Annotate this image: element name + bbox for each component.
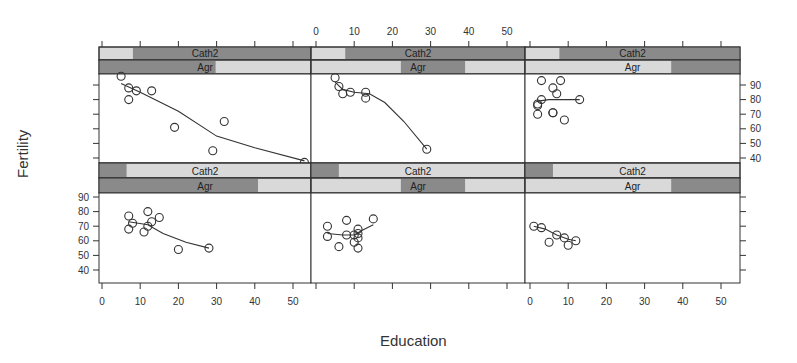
strip-cath2-label: Cath2 xyxy=(619,166,646,177)
strip-agr-label: Agr xyxy=(410,181,426,192)
y-tick-label-right: 40 xyxy=(750,153,762,164)
x-tick-label-top: 30 xyxy=(425,26,437,37)
strip-cath2-shade xyxy=(559,48,740,60)
y-tick-label-left: 70 xyxy=(78,221,90,232)
x-tick-label-top: 50 xyxy=(501,26,513,37)
plot-area xyxy=(311,193,525,283)
strip-cath2-shade xyxy=(525,164,553,178)
y-tick-label-left: 90 xyxy=(78,192,90,203)
x-tick-label-bottom: 40 xyxy=(677,296,689,307)
x-tick-label-bottom: 50 xyxy=(287,296,299,307)
panel-top-1: Cath2Agr xyxy=(99,47,311,166)
x-tick-label-bottom: 30 xyxy=(211,296,223,307)
plot-area xyxy=(525,193,740,283)
strip-agr-shade xyxy=(671,61,740,74)
x-tick-label-bottom: 20 xyxy=(173,296,185,307)
x-tick-label-top: 40 xyxy=(463,26,475,37)
x-axis-title: Education xyxy=(380,332,447,349)
strip-cath2-label: Cath2 xyxy=(192,48,219,59)
panel-top-3: Cath2Agr xyxy=(525,47,740,163)
x-tick-label-bottom: 50 xyxy=(715,296,727,307)
y-tick-label-left: 80 xyxy=(78,206,90,217)
y-tick-label-right: 50 xyxy=(750,138,762,149)
x-tick-label-top: 0 xyxy=(313,26,319,37)
strip-agr-label: Agr xyxy=(197,181,213,192)
strip-agr-label: Agr xyxy=(197,62,213,73)
strip-agr-shade xyxy=(99,179,258,193)
strip-cath2-label: Cath2 xyxy=(405,48,432,59)
x-tick-label-top: 10 xyxy=(349,26,361,37)
strip-cath2-shade xyxy=(311,164,339,178)
strip-cath2-label: Cath2 xyxy=(619,48,646,59)
x-tick-label-bottom: 10 xyxy=(135,296,147,307)
panel-bottom-2: Cath2Agr xyxy=(311,163,525,283)
x-tick-label-bottom: 20 xyxy=(601,296,613,307)
strip-cath2-label: Cath2 xyxy=(192,166,219,177)
strip-agr-shade xyxy=(671,179,740,193)
strip-cath2-shade xyxy=(99,164,127,178)
panel-top-2: Cath2Agr xyxy=(311,47,525,163)
strip-cath2-shade xyxy=(345,48,525,60)
y-tick-label-left: 50 xyxy=(78,250,90,261)
x-tick-label-top: 20 xyxy=(387,26,399,37)
coplot-chart: Cath2AgrCath2AgrCath2AgrCath2AgrCath2Agr… xyxy=(0,0,797,363)
y-tick-label-right: 70 xyxy=(750,109,762,120)
strip-cath2-label: Cath2 xyxy=(405,166,432,177)
strip-agr-label: Agr xyxy=(625,181,641,192)
plot-area xyxy=(99,193,311,283)
y-tick-label-right: 80 xyxy=(750,94,762,105)
strip-agr-label: Agr xyxy=(410,62,426,73)
panel-bottom-3: Cath2Agr xyxy=(525,163,740,283)
strip-cath2-shade xyxy=(133,48,311,60)
plot-area xyxy=(99,74,311,163)
y-axis-title: Fertility xyxy=(14,130,31,178)
strip-agr-label: Agr xyxy=(625,62,641,73)
x-tick-label-bottom: 30 xyxy=(639,296,651,307)
y-tick-label-left: 40 xyxy=(78,265,90,276)
y-tick-label-right: 60 xyxy=(750,123,762,134)
x-tick-label-bottom: 0 xyxy=(527,296,533,307)
panel-bottom-1: Cath2Agr xyxy=(99,163,311,283)
x-tick-label-bottom: 40 xyxy=(249,296,261,307)
y-tick-label-right: 90 xyxy=(750,80,762,91)
x-tick-label-bottom: 0 xyxy=(99,296,105,307)
y-tick-label-left: 60 xyxy=(78,235,90,246)
x-tick-label-bottom: 10 xyxy=(563,296,575,307)
